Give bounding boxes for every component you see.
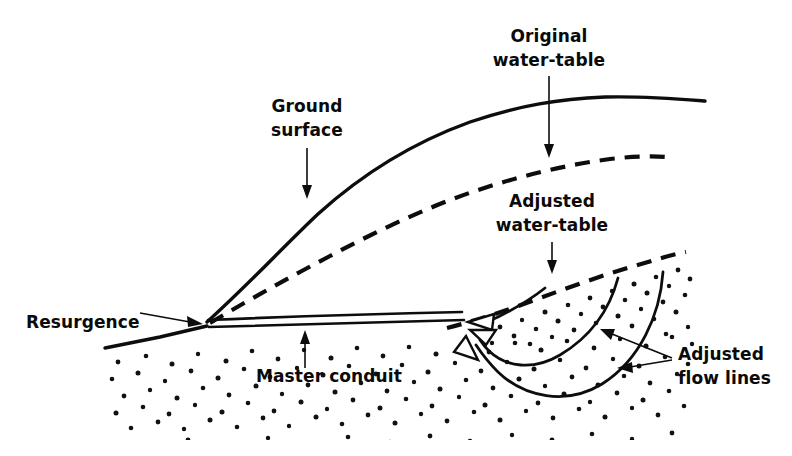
original-water-table-label-line2: water-table [493, 50, 606, 70]
annotation-ground-surface: Ground surface [271, 96, 343, 199]
adjusted-water-table-label-line1: Adjusted [509, 191, 595, 211]
ground-surface-label-line1: Ground [272, 96, 343, 116]
original-water-table-arrowhead [544, 144, 554, 158]
resurgence-arrowhead [187, 316, 203, 327]
ground-surface-label-line2: surface [271, 120, 343, 140]
annotation-adjusted-flow-lines: Adjusted flow lines [600, 329, 771, 388]
annotation-adjusted-water-table: Adjusted water-table [496, 191, 609, 274]
adjusted-water-table-arrowhead [547, 260, 557, 274]
stipple-field [110, 268, 695, 447]
flow-line-middle [480, 278, 618, 365]
master-conduit-label: Master conduit [256, 366, 402, 386]
adjusted-water-table-label-line2: water-table [496, 215, 609, 235]
adjusted-flow-lines-label-line2: flow lines [678, 368, 771, 388]
original-water-table-line [210, 156, 667, 323]
adjusted-flow-lines-leader-upper [612, 334, 672, 358]
resurgence-label: Resurgence [26, 312, 140, 332]
resurgence-leader [140, 313, 190, 322]
adjusted-flow-lines-arrowhead-upper [600, 329, 615, 340]
hydrogeology-cross-section: Original water-table Ground surface Adju… [0, 0, 792, 456]
master-conduit-arrowhead [300, 330, 310, 344]
ground-surface-arrowhead [302, 185, 312, 199]
annotation-original-water-table: Original water-table [493, 26, 606, 158]
adjusted-flow-lines-leader-lower [630, 360, 672, 367]
flow-line-deep [476, 272, 663, 396]
original-water-table-label-line1: Original [511, 26, 588, 46]
diagram-canvas: Original water-table Ground surface Adju… [0, 0, 792, 456]
adjusted-flow-lines-label-line1: Adjusted [678, 344, 764, 364]
annotation-resurgence: Resurgence [26, 312, 203, 332]
master-conduit-line [208, 312, 464, 327]
adjusted-flow-lines-group [476, 272, 663, 396]
